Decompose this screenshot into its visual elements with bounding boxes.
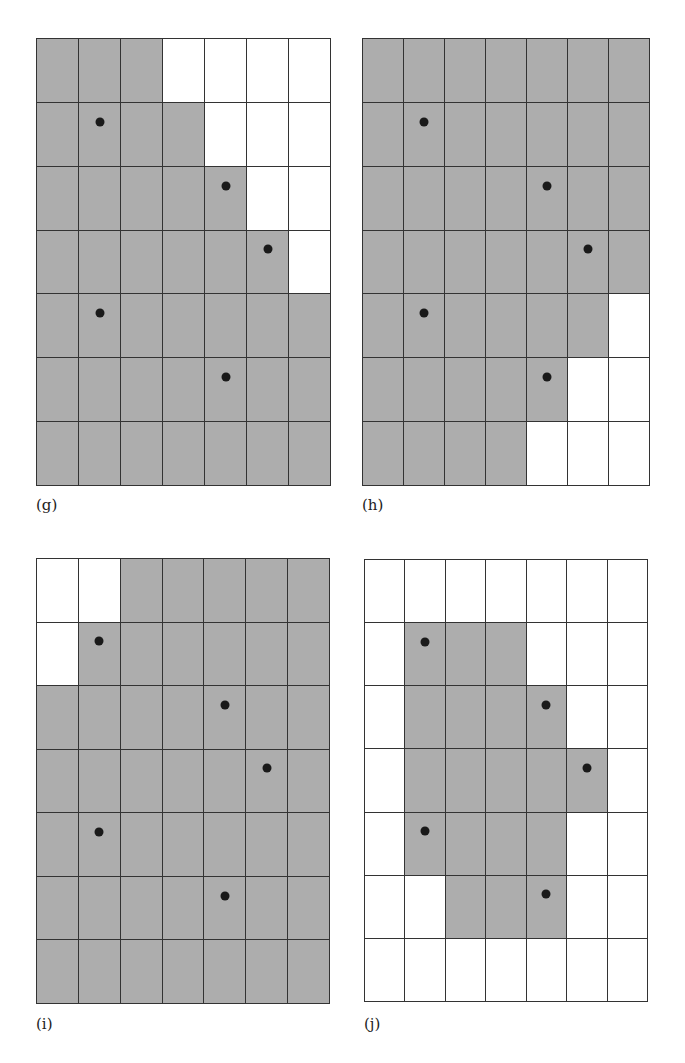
empty-cell xyxy=(567,813,607,876)
empty-cell xyxy=(365,813,405,876)
empty-cell xyxy=(289,231,331,295)
empty-cell xyxy=(568,358,609,422)
shaded-cell xyxy=(363,358,404,422)
shaded-cell xyxy=(37,940,79,1004)
empty-cell xyxy=(247,103,289,167)
shaded-cell xyxy=(404,103,445,167)
shaded-cell xyxy=(163,559,205,623)
shaded-cell xyxy=(121,422,163,486)
shaded-cell xyxy=(163,103,205,167)
shaded-cell xyxy=(37,422,79,486)
shaded-cell xyxy=(163,686,205,750)
shaded-cell xyxy=(246,559,288,623)
shaded-cell xyxy=(446,813,486,876)
empty-cell xyxy=(567,876,607,939)
shaded-cell xyxy=(405,749,445,812)
empty-cell xyxy=(567,686,607,749)
shaded-cell xyxy=(204,559,246,623)
dot-marker-icon xyxy=(420,117,429,126)
empty-cell xyxy=(79,559,121,623)
shaded-cell xyxy=(288,877,330,941)
shaded-cell xyxy=(121,813,163,877)
shaded-cell xyxy=(79,623,121,687)
shaded-cell xyxy=(121,294,163,358)
empty-cell xyxy=(205,39,247,103)
shaded-cell xyxy=(288,940,330,1004)
shaded-cell xyxy=(246,623,288,687)
shaded-cell xyxy=(486,623,526,686)
empty-cell xyxy=(365,876,405,939)
dot-marker-icon xyxy=(542,890,551,899)
empty-cell xyxy=(446,939,486,1002)
dot-marker-icon xyxy=(262,764,271,773)
shaded-cell xyxy=(567,749,607,812)
empty-cell xyxy=(567,939,607,1002)
dot-marker-icon xyxy=(95,117,104,126)
shaded-cell xyxy=(246,813,288,877)
shaded-cell xyxy=(79,358,121,422)
shaded-cell xyxy=(404,422,445,486)
empty-cell xyxy=(365,560,405,623)
shaded-cell xyxy=(289,422,331,486)
shaded-cell xyxy=(204,686,246,750)
shaded-cell xyxy=(486,294,527,358)
empty-cell xyxy=(205,103,247,167)
shaded-cell xyxy=(486,231,527,295)
empty-cell xyxy=(365,623,405,686)
empty-cell xyxy=(527,422,568,486)
shaded-cell xyxy=(568,231,609,295)
shaded-cell xyxy=(486,422,527,486)
empty-cell xyxy=(289,167,331,231)
shaded-cell xyxy=(609,167,650,231)
shaded-cell xyxy=(204,623,246,687)
shaded-cell xyxy=(163,294,205,358)
shaded-cell xyxy=(288,559,330,623)
shaded-cell xyxy=(486,103,527,167)
shaded-cell xyxy=(445,103,486,167)
shaded-cell xyxy=(486,167,527,231)
shaded-cell xyxy=(288,813,330,877)
shaded-cell xyxy=(246,686,288,750)
empty-cell xyxy=(365,686,405,749)
panel-label-j: (j) xyxy=(364,1015,380,1033)
shaded-cell xyxy=(405,813,445,876)
shaded-cell xyxy=(163,623,205,687)
shaded-cell xyxy=(204,813,246,877)
shaded-cell xyxy=(446,876,486,939)
shaded-cell xyxy=(37,103,79,167)
shaded-cell xyxy=(527,686,567,749)
shaded-cell xyxy=(486,686,526,749)
empty-cell xyxy=(567,623,607,686)
shaded-cell xyxy=(527,749,567,812)
dot-marker-icon xyxy=(95,309,104,318)
empty-cell xyxy=(446,560,486,623)
shaded-cell xyxy=(37,750,79,814)
shaded-cell xyxy=(121,623,163,687)
empty-cell xyxy=(247,39,289,103)
shaded-cell xyxy=(79,940,121,1004)
shaded-cell xyxy=(486,876,526,939)
shaded-cell xyxy=(445,167,486,231)
empty-cell xyxy=(608,623,648,686)
dot-marker-icon xyxy=(220,700,229,709)
shaded-cell xyxy=(79,686,121,750)
empty-cell xyxy=(608,560,648,623)
shaded-cell xyxy=(163,750,205,814)
shaded-cell xyxy=(247,422,289,486)
empty-cell xyxy=(568,422,609,486)
empty-cell xyxy=(163,39,205,103)
shaded-cell xyxy=(446,623,486,686)
dot-marker-icon xyxy=(95,637,104,646)
shaded-cell xyxy=(446,686,486,749)
shaded-cell xyxy=(486,749,526,812)
empty-cell xyxy=(608,686,648,749)
shaded-cell xyxy=(163,358,205,422)
empty-cell xyxy=(608,939,648,1002)
empty-cell xyxy=(365,939,405,1002)
shaded-cell xyxy=(79,422,121,486)
shaded-cell xyxy=(527,231,568,295)
shaded-cell xyxy=(121,39,163,103)
shaded-cell xyxy=(568,39,609,103)
shaded-cell xyxy=(404,167,445,231)
shaded-cell xyxy=(163,422,205,486)
